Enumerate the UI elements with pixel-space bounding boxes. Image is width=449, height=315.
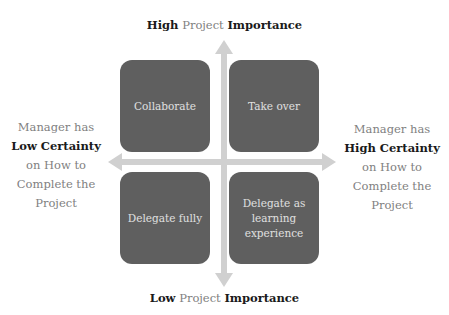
horizontal-axis [118, 159, 326, 165]
quadrant-delegate-fully: Delegate fully [120, 172, 210, 264]
left-label-line: Manager has [2, 118, 110, 137]
quadrant-delegate-learning: Delegate as learning experience [229, 172, 319, 264]
left-axis-label: Manager has Low Certainty on How to Comp… [2, 118, 110, 213]
top-axis-label: High Project Importance [0, 18, 449, 32]
arrow-up-icon [215, 40, 233, 54]
left-label-line: Complete the [2, 175, 110, 194]
right-label-line: on How to [338, 158, 446, 177]
right-label-line: Complete the [338, 177, 446, 196]
bottom-label-pre: Low [150, 291, 176, 305]
top-label-post: Importance [227, 18, 302, 32]
top-label-pre: High [147, 18, 179, 32]
left-label-bold: Low Certainty [2, 137, 110, 156]
arrow-left-icon [108, 153, 122, 171]
bottom-axis-label: Low Project Importance [0, 291, 449, 305]
right-label-bold: High Certainty [338, 139, 446, 158]
quadrant-collaborate: Collaborate [120, 60, 210, 152]
left-label-line: Project [2, 194, 110, 213]
bottom-label-mid: Project [179, 291, 221, 305]
arrow-down-icon [215, 273, 233, 287]
quadrant-label: Delegate as learning experience [239, 196, 309, 241]
left-label-line: on How to [2, 156, 110, 175]
quadrant-label: Collaborate [134, 99, 196, 114]
quadrant-take-over: Take over [229, 60, 319, 152]
bottom-label-post: Importance [224, 291, 299, 305]
right-label-line: Manager has [338, 120, 446, 139]
right-axis-label: Manager has High Certainty on How to Com… [338, 120, 446, 215]
top-label-mid: Project [182, 18, 224, 32]
quadrant-label: Delegate fully [128, 211, 202, 226]
arrow-right-icon [322, 153, 336, 171]
quadrant-label: Take over [248, 99, 300, 114]
right-label-line: Project [338, 196, 446, 215]
